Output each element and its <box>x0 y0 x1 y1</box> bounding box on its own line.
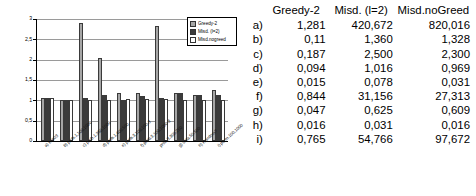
table-cell: 0,031 <box>395 75 472 89</box>
table-cell: 31,156 <box>327 89 394 103</box>
table-header-misd-l2: Misd. (l=2) <box>327 3 394 18</box>
row-label: d) <box>240 61 265 75</box>
legend-label: Misd.nogreed <box>198 37 226 42</box>
table-row: e)0,0150,0780,031 <box>240 75 472 89</box>
chart-legend: Greedy-2 Misd. (l=2) Misd.nogreed <box>187 17 237 46</box>
legend-label: Misd. (l=2) <box>198 29 220 34</box>
bar-group <box>57 19 76 141</box>
table-cell: 0,016 <box>265 118 328 132</box>
bar <box>202 100 206 141</box>
table-row: c)0,1872,5002,300 <box>240 47 472 61</box>
results-table: Greedy-2 Misd. (l=2) Misd.noGreed a)1,28… <box>240 3 472 146</box>
table-cell: 0,11 <box>265 32 328 46</box>
row-label: b) <box>240 32 265 46</box>
table-cell: 0,015 <box>265 75 328 89</box>
row-label: h) <box>240 118 265 132</box>
table-row: g)0,0470,6250,609 <box>240 103 472 117</box>
y-tick-label: 2 <box>14 57 32 62</box>
table-cell: 0,609 <box>395 103 472 117</box>
y-tick-label: 1 <box>14 98 32 103</box>
legend-swatch-icon <box>190 29 196 35</box>
table-header-corner <box>240 3 265 18</box>
table-cell: 0,187 <box>265 47 328 61</box>
table-cell: 0,094 <box>265 61 328 75</box>
table-cell: 0,016 <box>395 118 472 132</box>
table-row: h)0,0160,0310,016 <box>240 118 472 132</box>
table-cell: 2,500 <box>327 47 394 61</box>
x-axis-labels: a) exp03b) prob.1,100,1000c) prob.1,350,… <box>36 143 228 196</box>
bar <box>221 100 225 141</box>
table-cell: 1,016 <box>327 61 394 75</box>
table-cell: 820,016 <box>395 18 472 32</box>
bar-group <box>38 19 57 141</box>
table-cell: 97,672 <box>395 132 472 146</box>
row-label: g) <box>240 103 265 117</box>
legend-item-misd-l2: Misd. (l=2) <box>190 28 234 36</box>
figure-root: apx. 00,511,522,53 a) exp03b) prob.1,100… <box>0 0 476 196</box>
table-cell: 0,625 <box>327 103 394 117</box>
table-cell: 0,844 <box>265 89 328 103</box>
table-row: a)1,281420,672820,016 <box>240 18 472 32</box>
table-cell: 0,078 <box>327 75 394 89</box>
y-tick-label: 1,5 <box>14 77 32 82</box>
row-label: a) <box>240 18 265 32</box>
legend-swatch-icon <box>190 37 196 43</box>
table-cell: 1,360 <box>327 32 394 46</box>
table-cell: 2,300 <box>395 47 472 61</box>
table-header-greedy2: Greedy-2 <box>265 3 328 18</box>
table-cell: 54,766 <box>327 132 394 146</box>
y-tick-label: 2,5 <box>14 37 32 42</box>
legend-item-misd-nogreed: Misd.nogreed <box>190 36 234 44</box>
y-tick-label: 3 <box>14 16 32 21</box>
table-cell: 1,328 <box>395 32 472 46</box>
y-tick-label: 0,5 <box>14 118 32 123</box>
row-label: c) <box>240 47 265 61</box>
legend-swatch-icon <box>190 21 196 27</box>
row-label: f) <box>240 89 265 103</box>
table-row: i)0,76554,76697,672 <box>240 132 472 146</box>
bar-chart: apx. 00,511,522,53 a) exp03b) prob.1,100… <box>0 0 238 196</box>
table-cell: 0,969 <box>395 61 472 75</box>
table-header-row: Greedy-2 Misd. (l=2) Misd.noGreed <box>240 3 472 18</box>
legend-label: Greedy-2 <box>198 21 217 26</box>
table-row: f)0,84431,15627,313 <box>240 89 472 103</box>
table-header-misd-nogreed: Misd.noGreed <box>395 3 472 18</box>
table-cell: 27,313 <box>395 89 472 103</box>
table-cell: 0,031 <box>327 118 394 132</box>
table-row: d)0,0941,0160,969 <box>240 61 472 75</box>
row-label: i) <box>240 132 265 146</box>
table-row: b)0,111,3601,328 <box>240 32 472 46</box>
table-cell: 420,672 <box>327 18 394 32</box>
table-cell: 0,765 <box>265 132 328 146</box>
results-table-panel: Greedy-2 Misd. (l=2) Misd.noGreed a)1,28… <box>240 0 476 196</box>
table-cell: 1,281 <box>265 18 328 32</box>
y-tick-label: 0 <box>14 138 32 143</box>
table-body: a)1,281420,672820,016b)0,111,3601,328c)0… <box>240 18 472 146</box>
table-cell: 0,047 <box>265 103 328 117</box>
row-label: e) <box>240 75 265 89</box>
legend-item-greedy-2: Greedy-2 <box>190 20 234 28</box>
